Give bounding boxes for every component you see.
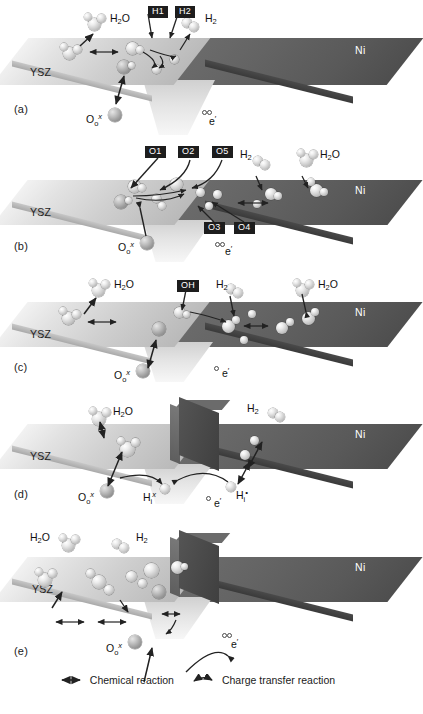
molecule-atom [89,279,97,287]
oxygen-ion [152,322,166,336]
legend-label-charge-transfer-reaction: Charge transfer reaction [222,674,335,686]
curved-arrow-icon [190,674,216,686]
panel-e: YSZ Ni H2O H2 Oox e′ (e) [0,505,393,660]
label-electron: e′ [225,244,232,257]
tpb-wedge-a [143,80,215,135]
molecule-atom [253,200,261,208]
ni-label-b: Ni [355,184,366,196]
label-h2o-right: H2O [318,278,338,292]
panel-letter-b: (b) [14,240,28,252]
molecule-atom [73,45,82,54]
molecule-atom [35,568,43,576]
molecule-atom [125,197,132,204]
label-h2: H2 [136,531,148,545]
molecule-atom [181,563,188,570]
legend-item-chemical-reaction: Chemical reaction [58,674,174,686]
molecule-atom [89,407,97,415]
molecule-atom [309,150,318,159]
h-interstitial-charged [226,482,236,492]
molecule-atom [260,160,270,170]
molecule-atom [71,535,80,544]
ysz-label-c: YSZ [30,328,51,340]
molecule-atom [240,336,248,344]
molecule-atom [84,13,92,21]
molecule-atom [293,279,301,287]
molecule-atom [86,569,95,578]
molecule-atom [307,178,315,186]
label-h2: H2 [205,12,217,26]
molecule-atom [158,202,166,210]
molecule-atom [305,280,314,289]
box-label-o1: O1 [145,146,166,158]
molecule-atom [196,188,205,197]
molecule-atom [189,22,199,32]
molecule-atom [138,579,147,588]
molecule-atom [248,310,256,318]
molecule-atom [297,149,305,157]
molecule-atom [320,188,328,196]
molecule-atom [275,412,285,422]
electron-dot [214,366,219,371]
molecule-atom [72,310,81,319]
molecule-atom [213,190,222,199]
molecule-atom [102,408,111,417]
legend: Chemical reaction Charge transfer reacti… [0,668,393,692]
label-electron: e′ [222,366,229,379]
ni-label-d: Ni [355,428,366,440]
molecule-atom [59,534,67,542]
box-label-o4: O4 [234,222,255,234]
box-label-o3: O3 [204,222,225,234]
label-electron: e′ [209,114,216,127]
box-label-h2: H2 [175,6,195,18]
molecule-atom [126,571,137,582]
label-h2o: H2O [113,405,133,419]
electron-dot [206,496,211,501]
molecule-atom [250,436,259,445]
panel-a: YSZ Ni H2O H2 H1 H2 Oox e′ (a) [0,0,393,140]
molecule-atom [170,55,179,64]
ysz-label-d: YSZ [30,450,51,462]
box-label-o2: O2 [178,146,199,158]
molecule-atom [136,46,144,54]
legend-label-chemical-reaction: Chemical reaction [90,674,174,686]
panel-letter-e: (e) [14,645,28,657]
molecule-atom [48,569,57,578]
panel-letter-c: (c) [14,361,27,373]
panel-letter-a: (a) [14,103,28,115]
ysz-label-a: YSZ [30,66,51,78]
label-h2o: H2O [320,148,340,162]
box-label-oh: OH [177,280,199,292]
molecule-atom [232,316,240,324]
label-h-interstitial-neutral: Hix [143,490,156,506]
label-h-interstitial-charged: Hi• [236,488,248,504]
tpb-wedge-c [143,342,213,382]
molecule-atom [128,62,135,69]
label-h2o: H2O [114,278,134,292]
molecule-atom [131,438,140,447]
double-arrow-straight-icon [58,674,84,686]
molecule-atom [274,192,282,200]
molecule-atom [286,318,294,326]
molecule-atom [104,585,114,595]
molecule-atom [119,543,129,553]
label-h2: H2 [240,148,252,162]
label-lattice-oxygen: Oox [86,112,102,128]
ysz-label-b: YSZ [30,206,51,218]
h-interstitial-neutral [160,484,170,494]
panel-d: YSZ Ni H2O H2 Oox Hix Hi• e′ (d) [0,380,393,505]
molecule-atom [60,43,68,51]
molecule-atom [144,563,159,578]
tpb-wedge-e [143,597,213,639]
box-label-h1: H1 [148,6,168,18]
label-h2: H2 [247,402,259,416]
label-lattice-oxygen: Oox [118,240,134,256]
molecule-atom [97,14,106,23]
molecule-atom [152,65,161,74]
molecule-atom [170,178,183,191]
molecule-atom [233,288,243,298]
label-h2o: H2O [110,12,130,26]
molecule-atom [311,308,319,316]
molecule-atom [240,450,250,460]
label-electron: e′ [231,637,238,650]
lattice-oxygen [136,364,150,378]
